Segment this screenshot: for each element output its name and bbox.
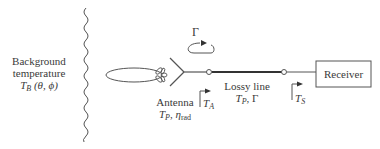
radiation-pattern-side-lobes [155, 67, 167, 83]
lossy-line-label: Lossy line TP, Γ [214, 80, 280, 104]
antenna-terminal [207, 70, 212, 75]
background-temperature-label: Background temperature TB (θ, ϕ) [0, 55, 78, 91]
diagram-canvas: Background temperature TB (θ, ϕ) Γ Anten… [0, 0, 380, 149]
antenna-symbol [170, 58, 207, 86]
antenna-name: Antenna [150, 96, 200, 108]
antenna-label: Antenna TP, ηrad [150, 96, 200, 120]
background-label-line2: temperature [0, 67, 78, 79]
background-wavy-boundary [83, 8, 88, 142]
receiver-terminal [282, 70, 287, 75]
background-temperature-symbol: TB (θ, ϕ) [0, 79, 78, 91]
receiver-label: Receiver [316, 68, 371, 80]
reflection-gamma-label: Γ [192, 26, 199, 38]
ref-plane-ta-label: TA [203, 97, 214, 109]
reflection-loop-arrow [188, 40, 214, 53]
antenna-params: TP, ηrad [150, 108, 200, 120]
ref-plane-ts-label: TS [295, 92, 305, 104]
lossy-line-params: TP, Γ [214, 92, 280, 104]
lossy-line-name: Lossy line [214, 80, 280, 92]
radiation-pattern-main-lobe [106, 68, 162, 82]
background-label-line1: Background [0, 55, 78, 67]
